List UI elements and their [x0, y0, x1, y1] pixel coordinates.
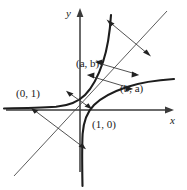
x-axis-arrowhead	[165, 107, 174, 114]
diagram-canvas: y x (a, b) (b, a) (0, 1) (1, 0)	[0, 0, 187, 190]
curves-group	[4, 15, 174, 186]
label-point-1-0: (1, 0)	[92, 118, 116, 131]
x-axis-label: x	[169, 114, 175, 126]
arrow-tip-ab-secondary	[87, 73, 95, 79]
y-axis-label: y	[65, 7, 71, 19]
exponential-curve	[82, 79, 174, 186]
label-point-0-1: (0, 1)	[16, 87, 40, 100]
y-axis-arrowhead	[77, 8, 84, 17]
label-point-ab: (a, b)	[76, 57, 100, 70]
label-point-ba: (b, a)	[120, 82, 144, 95]
inverse-function-diagram: y x (a, b) (b, a) (0, 1) (1, 0)	[0, 0, 187, 190]
connector-lower	[34, 110, 83, 147]
arrow-tip-ba	[132, 72, 140, 78]
